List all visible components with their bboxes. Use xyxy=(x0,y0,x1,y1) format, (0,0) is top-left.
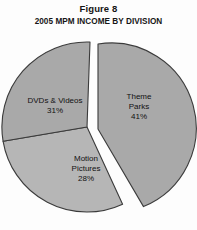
figure-container: Figure 8 2005 MPM INCOME BY DIVISION The… xyxy=(0,0,197,230)
figure-subtitle: 2005 MPM INCOME BY DIVISION xyxy=(0,17,197,26)
pie-label-dvds-videos: DVDs & Videos 31% xyxy=(14,96,96,116)
pie-label-motion-pictures: Motion Pictures 28% xyxy=(54,154,118,183)
pie-label-theme-parks-line1: Theme xyxy=(112,92,166,102)
pie-chart: Theme Parks 41% DVDs & Videos 31% Motion… xyxy=(0,30,197,230)
pie-label-theme-parks-value: 41% xyxy=(112,112,166,122)
pie-label-motion-pictures-value: 28% xyxy=(54,174,118,184)
pie-label-motion-pictures-line2: Pictures xyxy=(54,164,118,174)
pie-label-theme-parks-line2: Parks xyxy=(112,102,166,112)
pie-chart-svg xyxy=(0,30,197,230)
pie-label-dvds-videos-value: 31% xyxy=(14,106,96,116)
pie-label-theme-parks: Theme Parks 41% xyxy=(112,92,166,121)
pie-slice-dvds-videos[interactable] xyxy=(2,42,90,141)
pie-label-motion-pictures-line1: Motion xyxy=(54,154,118,164)
pie-label-dvds-videos-line1: DVDs & Videos xyxy=(14,96,96,106)
figure-title: Figure 8 xyxy=(0,3,197,14)
